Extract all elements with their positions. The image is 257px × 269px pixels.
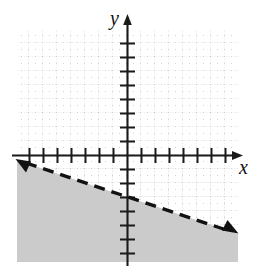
y-axis-arrow-icon	[123, 14, 132, 25]
x-axis-label: x	[238, 156, 248, 178]
y-axis-label: y	[108, 7, 119, 30]
coordinate-plane-figure: y x	[0, 0, 257, 269]
graph-svg: y x	[0, 0, 257, 269]
